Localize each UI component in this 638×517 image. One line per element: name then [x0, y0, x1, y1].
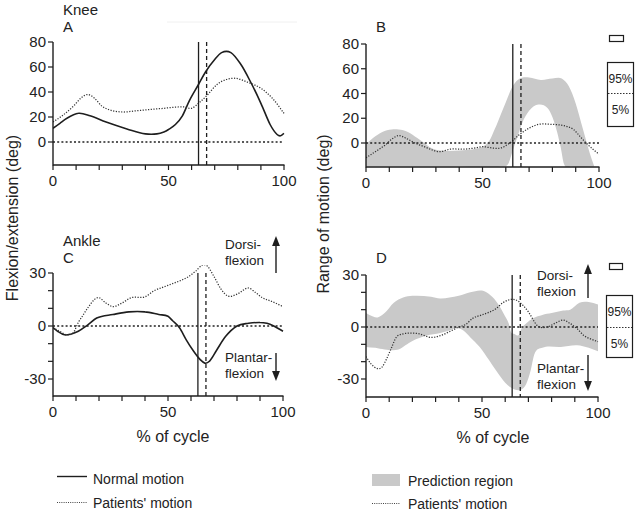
- dorsiflexion-label-line1: Dorsi-: [537, 268, 573, 283]
- x-tick-label: 50: [160, 172, 177, 189]
- panel-c-dorsiflexion-annotation: Dorsi- flexion: [225, 237, 276, 273]
- legend-label: Patients' motion: [408, 496, 507, 512]
- percentile-lower-label: 5%: [612, 103, 630, 117]
- panel-c-letter: C: [63, 249, 74, 266]
- right-y-axis-title: Range of motion (deg): [315, 134, 332, 293]
- left-y-axis-title: Flexion/extension (deg): [4, 135, 21, 301]
- plantarflexion-label-line2: flexion: [537, 377, 576, 392]
- panel-b-knee-range: 806040200050100: [342, 35, 611, 191]
- y-tick-label: 40: [342, 85, 359, 102]
- y-tick-label: 0: [351, 134, 359, 151]
- y-tick-label: 40: [29, 83, 46, 100]
- x-tick-label: 100: [271, 172, 296, 189]
- legend-item-patients-motion: Patients' motion: [372, 496, 507, 512]
- legend-label: Normal motion: [93, 471, 184, 487]
- y-tick-label: 0: [38, 133, 46, 150]
- normal-motion-line: [53, 51, 284, 135]
- panel-c-joint-title: Ankle: [63, 232, 101, 249]
- legend-item-normal-motion: Normal motion: [57, 471, 184, 487]
- y-tick-label: 0: [38, 317, 46, 334]
- panel-d-letter: D: [376, 249, 387, 266]
- x-tick-label: 50: [474, 174, 491, 191]
- legend-label: Prediction region: [408, 473, 513, 489]
- empty-region-swatch: [610, 264, 623, 270]
- panel-b-percentile-key: 95% 5%: [608, 36, 634, 127]
- panel-b-letter: B: [376, 18, 386, 35]
- legend-right: Prediction region Patients' motion: [372, 473, 513, 512]
- y-tick-label: -30: [337, 370, 359, 387]
- dorsiflexion-label-line2: flexion: [537, 284, 576, 299]
- y-tick-label: 80: [342, 35, 359, 52]
- plot-area: [53, 265, 283, 363]
- plot-area: [366, 77, 599, 167]
- plot-area: [53, 51, 284, 142]
- x-tick-label: 100: [586, 174, 611, 191]
- legend-item-prediction-region: Prediction region: [372, 473, 513, 489]
- y-tick-label: 60: [29, 58, 46, 75]
- panel-a-joint-title: Knee: [63, 1, 98, 18]
- percentile-lower-label: 5%: [611, 337, 629, 351]
- dorsiflexion-label-line2: flexion: [225, 253, 264, 268]
- empty-region-swatch: [610, 36, 624, 42]
- panel-d-dorsiflexion-annotation: Dorsi- flexion: [537, 268, 588, 299]
- x-tick-label: 0: [49, 403, 57, 420]
- percentile-upper-label: 95%: [608, 72, 632, 86]
- percentile-upper-label: 95%: [607, 305, 631, 319]
- panel-d-percentile-key: 95% 5%: [607, 264, 633, 358]
- left-x-axis-title: % of cycle: [137, 428, 210, 445]
- plantarflexion-label-line1: Plantar-: [537, 361, 584, 376]
- x-tick-label: 100: [585, 404, 610, 421]
- dorsiflexion-label-line1: Dorsi-: [225, 237, 261, 252]
- x-tick-label: 50: [160, 403, 177, 420]
- legend-left: Normal motion Patients' motion: [57, 471, 192, 511]
- prediction-region: [366, 77, 594, 167]
- figure: 806040200050100 806040200050100 300-3005…: [0, 0, 638, 517]
- legend-label: Patients' motion: [93, 495, 192, 511]
- y-tick-label: 60: [342, 60, 359, 77]
- panel-a-knee-normal: 806040200050100: [29, 33, 296, 189]
- panel-c-plantarflexion-annotation: Plantar- flexion: [225, 350, 276, 381]
- x-tick-label: 50: [474, 404, 491, 421]
- plantarflexion-label-line2: flexion: [225, 366, 264, 381]
- x-tick-label: 0: [362, 404, 370, 421]
- x-tick-label: 0: [49, 172, 57, 189]
- x-tick-label: 100: [270, 403, 295, 420]
- y-tick-label: 30: [29, 264, 46, 281]
- plantarflexion-label-line1: Plantar-: [225, 350, 272, 365]
- panel-a-letter: A: [63, 18, 73, 35]
- y-tick-label: 20: [29, 108, 46, 125]
- x-tick-label: 0: [362, 174, 370, 191]
- right-x-axis-title: % of cycle: [457, 429, 530, 446]
- y-tick-label: 80: [29, 33, 46, 50]
- gray-fill-swatch: [372, 474, 400, 486]
- y-tick-label: 0: [351, 318, 359, 335]
- y-tick-label: 30: [342, 266, 359, 283]
- y-tick-label: -30: [24, 370, 46, 387]
- panel-d-plantarflexion-annotation: Plantar- flexion: [537, 355, 588, 392]
- legend-item-patients-motion: Patients' motion: [57, 495, 192, 511]
- y-tick-label: 20: [342, 109, 359, 126]
- panel-c-ankle-normal: 300-30050100: [24, 264, 295, 420]
